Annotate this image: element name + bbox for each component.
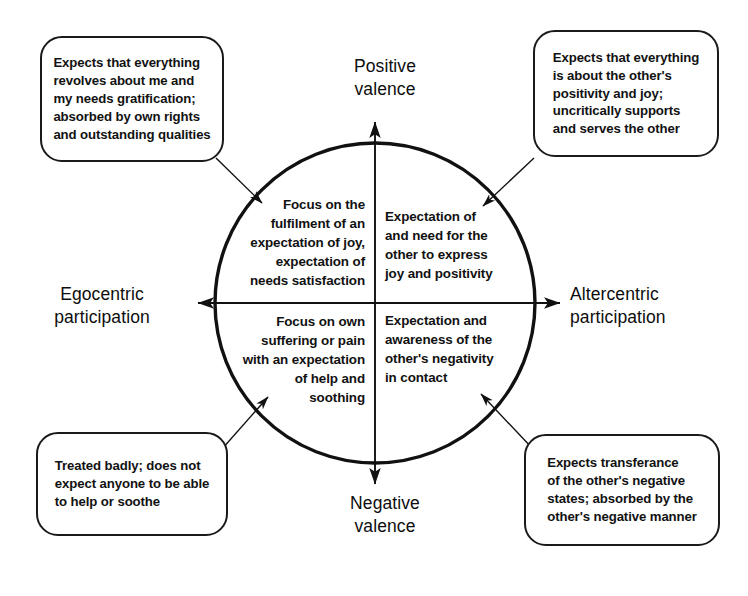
- axis-label-negative-valence: Negative valence: [305, 492, 465, 538]
- callout-bottom-right-text: Expects transferance of the other's nega…: [547, 454, 697, 526]
- axis-label-positive-valence: Positive valence: [310, 55, 460, 101]
- callout-box-bottom-left: Treated badly; does not expect anyone to…: [36, 432, 228, 536]
- quadrant-text-top-right: Expectation of and need for the other to…: [385, 207, 513, 283]
- callout-box-bottom-right: Expects transferance of the other's nega…: [524, 434, 720, 546]
- connector-top-right: [483, 158, 534, 206]
- callout-box-top-left: Expects that everything revolves about m…: [40, 36, 224, 162]
- diagram-canvas: Expects that everything revolves about m…: [0, 0, 748, 596]
- quadrant-text-bottom-right: Expectation and awareness of the other's…: [385, 311, 515, 387]
- callout-box-top-right: Expects that everything is about the oth…: [533, 30, 719, 157]
- connector-bottom-right: [481, 394, 533, 449]
- callout-bottom-left-text: Treated badly; does not expect anyone to…: [55, 457, 209, 511]
- axis-label-altercentric-participation: Altercentric participation: [562, 283, 742, 329]
- quadrant-text-bottom-left: Focus on own suffering or pain with an e…: [238, 312, 365, 407]
- callout-top-right-text: Expects that everything is about the oth…: [553, 49, 699, 139]
- axis-label-egocentric-participation: Egocentric participation: [18, 283, 186, 329]
- quadrant-text-top-left: Focus on the fulfilment of an expectatio…: [240, 195, 365, 290]
- callout-top-left-text: Expects that everything revolves about m…: [53, 54, 210, 144]
